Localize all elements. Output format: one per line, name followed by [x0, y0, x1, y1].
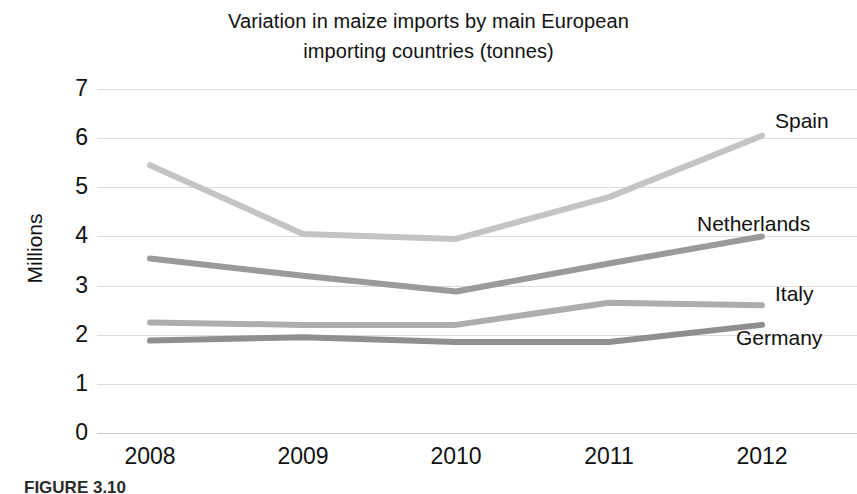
series-label-netherlands: Netherlands [697, 213, 810, 234]
series-lines [97, 89, 857, 433]
y-tick-label-6: 6 [0, 126, 88, 149]
y-tick-label-5: 5 [0, 175, 88, 198]
y-tick-label-2: 2 [0, 323, 88, 346]
chart-title: Variation in maize imports by main Europ… [0, 6, 857, 66]
y-tick-label-4: 4 [0, 224, 88, 247]
figure-caption: FIGURE 3.10 [24, 478, 844, 494]
y-tick-label-7: 7 [0, 77, 88, 100]
series-line-netherlands [150, 236, 762, 291]
x-axis-tick-labels: 20082009201020112012 [97, 441, 857, 475]
plot-area [97, 89, 857, 433]
series-line-italy [150, 303, 762, 325]
figure-root: Variation in maize imports by main Europ… [0, 0, 857, 494]
y-tick-label-0: 0 [0, 421, 88, 444]
chart-title-line-2: importing countries (tonnes) [0, 36, 857, 66]
x-tick-label-2008: 2008 [90, 441, 210, 471]
x-tick-label-2010: 2010 [396, 441, 516, 471]
series-label-spain: Spain [775, 110, 829, 131]
y-tick-label-3: 3 [0, 274, 88, 297]
gridline-0 [97, 433, 857, 434]
x-tick-label-2012: 2012 [702, 441, 822, 471]
x-tick-label-2011: 2011 [549, 441, 669, 471]
chart-title-line-1: Variation in maize imports by main Europ… [0, 6, 857, 36]
series-line-spain [150, 136, 762, 239]
x-tick-label-2009: 2009 [243, 441, 363, 471]
y-axis-tick-labels: 01234567 [0, 89, 88, 433]
y-tick-label-1: 1 [0, 372, 88, 395]
series-label-italy: Italy [775, 283, 814, 304]
series-label-germany: Germany [736, 327, 822, 348]
